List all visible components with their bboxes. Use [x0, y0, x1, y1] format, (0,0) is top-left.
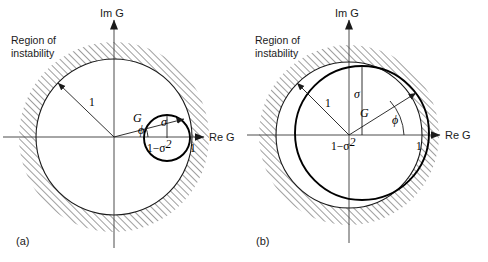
unit-radius-label-b: 1	[325, 97, 331, 109]
imaginary-axis-label-a: Im G	[100, 7, 124, 19]
instability-label-line2-b: instability	[255, 47, 299, 59]
panel-tag-b: (b)	[256, 235, 269, 247]
unit-tick-label-b: 1	[416, 140, 422, 152]
phase-label-a: ϕ	[138, 123, 144, 137]
panel-tag-a: (a)	[16, 235, 29, 247]
real-axis-label-b: Re G	[445, 129, 471, 141]
instability-label-line1-b: Region of	[255, 34, 300, 46]
real-axis-label-a: Re G	[209, 131, 235, 143]
instability-label-line2-a: instability	[11, 47, 55, 59]
unit-tick-label-a: 1	[190, 142, 196, 154]
stability-diagram-figure: 1 G ϕ σ 1−σ2 1 Im G Re G Region of insta…	[0, 0, 488, 262]
instability-label-line1-a: Region of	[11, 34, 56, 46]
panel-a: 1 G ϕ σ 1−σ2 1 Im G Re G Region of insta…	[0, 0, 244, 262]
phase-label-b: ϕ	[392, 113, 398, 127]
unit-radius-label-a: 1	[89, 96, 95, 108]
imaginary-axis-label-b: Im G	[335, 7, 359, 19]
panel-a-svg: 1 G ϕ σ 1−σ2 1 Im G Re G Region of insta…	[0, 0, 244, 262]
panel-b-svg: 1 G ϕ σ 1−σ2 1 Im G Re G Region of insta…	[244, 0, 488, 262]
panel-b: 1 G ϕ σ 1−σ2 1 Im G Re G Region of insta…	[244, 0, 488, 262]
gain-label-b: G	[360, 106, 369, 120]
